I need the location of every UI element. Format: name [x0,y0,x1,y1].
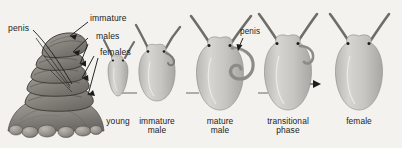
stage-label-female-line1: female [346,117,372,126]
stage-label-immature-male: immature male [139,117,175,134]
figure-artwork [0,0,402,148]
callout-label-penis-stack: penis [8,24,29,33]
callout-label-immature: immature [90,14,127,23]
stage-label-mature-male-line2: male [207,126,234,135]
callout-label-males: males [96,32,119,41]
stage-label-mature-male: mature male [207,117,234,134]
stage-label-transitional-phase: transitional phase [267,117,309,134]
stage-label-young-line1: young [106,117,129,126]
stage-label-female: female [346,117,372,126]
stage-label-immature-male-line2: male [139,126,175,135]
stage-label-transitional-phase-line2: phase [267,126,309,135]
callout-label-penis-mature: penis [240,28,260,36]
limpet-sequential-hermaphroditism-figure: penis immature males females penis young… [0,0,402,148]
callout-label-females: females [100,48,131,57]
stage-label-young: young [106,117,129,126]
